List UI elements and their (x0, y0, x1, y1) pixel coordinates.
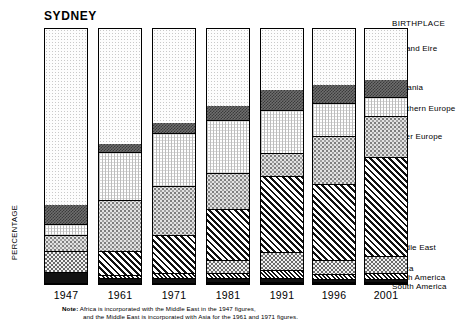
segment-1996-africa (313, 275, 355, 280)
segment-1991-na (261, 279, 303, 283)
bar-1981 (206, 28, 250, 285)
x-tick-1996: 1996 (308, 289, 360, 301)
segment-1991-asia (261, 177, 303, 254)
segment-1991-sa (261, 283, 303, 284)
segment-1981-uk (207, 29, 249, 106)
segment-1996-oeurope (313, 137, 355, 184)
segment-1981-africa (207, 274, 249, 279)
segment-1981-me (207, 261, 249, 274)
segment-1961-uk (99, 29, 141, 144)
segment-1996-sa (313, 283, 355, 284)
segment-1947-uk (45, 29, 87, 205)
segment-1971-uk (153, 29, 195, 123)
x-tick-1971: 1971 (148, 289, 200, 301)
segment-2001-oeurope (365, 117, 407, 158)
segment-1996-na (313, 280, 355, 283)
segment-1996-me (313, 261, 355, 275)
segment-1996-seurope (313, 104, 355, 137)
bar-1971 (152, 28, 196, 285)
segment-1981-oeurope (207, 174, 249, 210)
y-axis-label: PERCENTAGE (10, 193, 19, 273)
segment-1947-me (45, 252, 87, 272)
segment-1961-africa (99, 276, 141, 279)
segment-1961-oceania (99, 144, 141, 153)
segment-1996-asia (313, 185, 355, 262)
bar-1991 (260, 28, 304, 285)
bar-1947 (44, 28, 88, 285)
segment-1947-oceania (45, 205, 87, 225)
x-tick-1981: 1981 (202, 289, 254, 301)
segment-2001-sa (365, 283, 407, 284)
segment-1971-seurope (153, 134, 195, 188)
segment-1996-uk (313, 29, 355, 85)
segment-1971-na (153, 279, 195, 284)
segment-1981-na (207, 279, 249, 283)
segment-1971-asia (153, 236, 195, 274)
segment-1971-africa (153, 274, 195, 279)
segment-1947-na (45, 273, 87, 284)
segment-1991-uk (261, 29, 303, 90)
chart-footnote: Note: Africa is incorporated with the Mi… (62, 305, 298, 321)
segment-1961-na (99, 279, 141, 284)
segment-1991-seurope (261, 111, 303, 154)
segment-1991-oeurope (261, 154, 303, 177)
segment-2001-uk (365, 29, 407, 80)
bar-1961 (98, 28, 142, 285)
segment-1996-oceania (313, 85, 355, 104)
segment-1947-oeurope (45, 236, 87, 253)
bar-1996 (312, 28, 356, 285)
segment-1991-me (261, 253, 303, 271)
footnote-line-1: Africa is incorporated with the Middle E… (78, 305, 255, 312)
x-tick-1947: 1947 (40, 289, 92, 301)
segment-2001-na (365, 280, 407, 283)
legend-heading: BIRTHPLACE (392, 19, 445, 28)
birthplace-stacked-bar-chart: SYDNEY PERCENTAGE BIRTHPLACE UK and Eire… (0, 0, 476, 325)
segment-1961-seurope (99, 153, 141, 201)
segment-2001-oceania (365, 80, 407, 98)
footnote-line-2: and the Middle East is incorporated with… (62, 313, 298, 321)
segment-2001-africa (365, 274, 407, 280)
segment-1961-asia (99, 252, 141, 276)
bar-2001 (364, 28, 408, 285)
segment-1981-asia (207, 210, 249, 261)
x-tick-2001: 2001 (360, 289, 412, 301)
segment-1971-oeurope (153, 187, 195, 235)
segment-1981-sa (207, 283, 249, 284)
segment-2001-asia (365, 158, 407, 257)
segment-2001-me (365, 257, 407, 274)
segment-1961-oeurope (99, 201, 141, 252)
footnote-prefix: Note: (62, 305, 78, 312)
segment-1981-seurope (207, 121, 249, 175)
segment-1971-oceania (153, 123, 195, 133)
plot-area (44, 28, 378, 285)
x-tick-1961: 1961 (94, 289, 146, 301)
segment-1991-oceania (261, 90, 303, 110)
x-tick-1991: 1991 (256, 289, 308, 301)
page-title: SYDNEY (44, 9, 97, 23)
segment-1947-seurope (45, 225, 87, 235)
segment-1991-africa (261, 271, 303, 279)
segment-2001-seurope (365, 98, 407, 117)
segment-1981-oceania (207, 106, 249, 121)
